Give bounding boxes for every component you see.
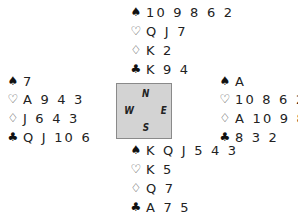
heart-icon: ♡ [130,160,142,179]
spade-icon: ♠ [219,72,231,91]
west-spades: 7 [23,72,33,91]
diamond-icon: ♢ [7,109,19,128]
spade-icon: ♠ [7,72,19,91]
heart-icon: ♡ [130,22,142,41]
south-spades: K Q J 5 4 3 [146,141,238,160]
east-spades: A [235,72,246,91]
north-spades: 10 9 8 6 2 [146,3,234,22]
south-clubs: A 7 5 [146,198,191,213]
compass-north-label: N [142,88,149,100]
west-diamonds: J 6 4 3 [23,109,79,128]
east-hearts: 10 8 6 2 [235,90,298,109]
west-hearts: A 9 4 3 [23,90,85,109]
north-diamonds: K 2 [146,41,174,60]
diamond-icon: ♢ [130,41,142,60]
compass-box: N W E S [116,83,172,139]
compass-west-label: W [124,105,134,117]
spade-icon: ♠ [130,3,142,22]
club-icon: ♣ [130,60,142,79]
north-clubs: K 9 4 [146,60,190,79]
west-clubs: Q J 10 6 [23,128,92,147]
heart-icon: ♡ [219,90,231,109]
compass-east-label: E [161,105,167,117]
spade-icon: ♠ [130,141,142,160]
south-hearts: K 5 [146,160,174,179]
diamond-icon: ♢ [219,109,231,128]
east-clubs: 8 3 2 [235,128,279,147]
heart-icon: ♡ [7,90,19,109]
diamond-icon: ♢ [130,179,142,198]
north-hearts: Q J 7 [146,22,188,41]
club-icon: ♣ [7,128,19,147]
compass-south-label: S [143,122,149,134]
club-icon: ♣ [130,198,142,213]
east-diamonds: A 10 9 8 5 [235,109,298,128]
south-diamonds: Q 7 [146,179,175,198]
